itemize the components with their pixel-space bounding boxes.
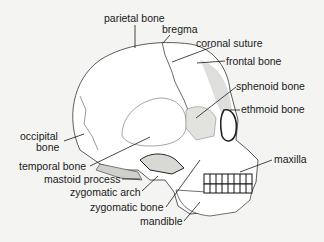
- label-mandible: mandible: [140, 216, 183, 227]
- label-coronal-suture: coronal suture: [196, 38, 263, 49]
- label-zygomatic-arch: zygomatic arch: [70, 187, 141, 198]
- skull-diagram: parietal bone bregma coronal suture fron…: [0, 0, 324, 242]
- label-bregma: bregma: [162, 24, 198, 35]
- label-sphenoid-bone: sphenoid bone: [236, 81, 305, 92]
- label-occipital-bone-line2: bone: [36, 142, 59, 153]
- label-frontal-bone: frontal bone: [226, 56, 281, 67]
- label-parietal-bone: parietal bone: [104, 13, 165, 24]
- label-zygomatic-bone: zygomatic bone: [90, 202, 164, 213]
- label-mastoid-process: mastoid process: [44, 174, 120, 185]
- label-maxilla: maxilla: [274, 154, 307, 165]
- label-ethmoid-bone: ethmoid bone: [241, 104, 305, 115]
- label-temporal-bone: temporal bone: [19, 161, 86, 172]
